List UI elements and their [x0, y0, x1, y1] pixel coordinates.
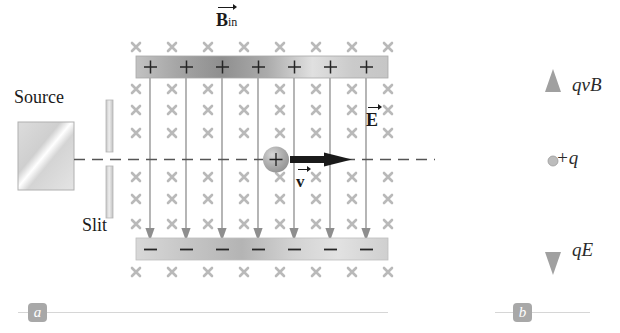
slit-label: Slit — [82, 216, 107, 234]
velocity-arrow — [290, 153, 352, 167]
particle-source — [18, 122, 74, 190]
magnetic-field-subscript: in — [228, 15, 237, 29]
vector-arrow-icon — [367, 104, 382, 111]
panel-a-rule — [18, 312, 388, 313]
source-label: Source — [14, 88, 64, 106]
charged-particle — [263, 147, 289, 173]
negative-plate — [136, 238, 388, 260]
electric-force-label: qE — [572, 240, 593, 259]
panel-b-rule — [495, 312, 590, 313]
panel-b-badge: b — [513, 303, 532, 322]
charge-label: +q — [556, 148, 578, 167]
velocity-label: v — [296, 166, 311, 190]
vector-arrow-icon — [217, 4, 237, 11]
force-balance-arrow — [545, 69, 561, 275]
vector-arrow-icon — [297, 166, 311, 173]
magnetic-field-label: Bin — [216, 4, 237, 29]
magnetic-force-label: qvB — [572, 75, 602, 94]
panel-a-badge: a — [28, 303, 47, 322]
velocity-symbol: v — [296, 173, 311, 190]
physics-figure: Source Slit Bin E v qvB +q qE a b — [0, 0, 620, 333]
electric-field-label: E — [366, 104, 382, 129]
positive-plate — [136, 56, 388, 78]
electric-field-symbol: E — [366, 111, 382, 129]
magnetic-field-symbol: B — [216, 10, 228, 30]
